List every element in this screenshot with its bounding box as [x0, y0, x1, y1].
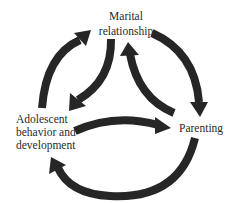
arrow-shaft [58, 138, 195, 196]
arrow-shaft [75, 120, 158, 131]
parenting-label: Parenting [179, 122, 223, 135]
arrow-marital-to-adolescent [69, 39, 111, 111]
arrowhead-icon [190, 102, 208, 117]
arrow-adolescent-to-parenting [75, 117, 171, 134]
arrow-parenting-to-marital [120, 42, 174, 113]
adolescent-label-line-2: behavior and [16, 126, 76, 138]
node-adolescent-behavior: Adolescent behavior and development [16, 113, 76, 152]
marital-label-line-1: Marital [109, 10, 143, 22]
node-marital-relationship: Marital relationship [99, 10, 154, 38]
arrowhead-icon [155, 117, 171, 134]
arrow-shaft [78, 39, 111, 100]
node-parenting: Parenting [179, 122, 223, 135]
marital-label-line-2: relationship [99, 25, 154, 38]
adolescent-label-line-3: development [16, 139, 76, 152]
arrowhead-icon [120, 42, 139, 56]
adolescent-label-line-1: Adolescent [16, 113, 69, 125]
relationship-cycle-diagram: Marital relationship Adolescent behavior… [0, 0, 227, 203]
arrow-shaft [130, 54, 174, 113]
arrow-shaft [152, 33, 199, 102]
